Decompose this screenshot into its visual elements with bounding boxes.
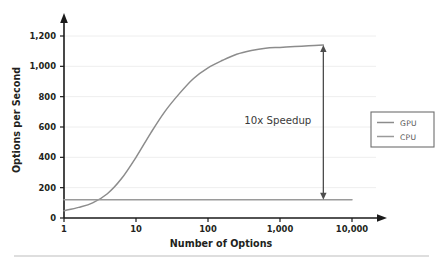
x-tick-label: 100: [199, 224, 217, 234]
y-tick-label: 0: [50, 213, 56, 223]
y-tick-label: 400: [39, 152, 57, 162]
chart-legend[interactable]: GPU CPU: [371, 112, 434, 147]
y-tick-label: 800: [39, 92, 57, 102]
options-per-second-chart: 02004006008001,0001,200 1101001,00010,00…: [0, 0, 443, 264]
y-tick-label: 600: [39, 122, 57, 132]
speedup-annotation-label: 10x Speedup: [244, 115, 311, 126]
x-tick-label: 10,000: [336, 224, 368, 234]
x-tick-label: 1: [61, 224, 67, 234]
y-tick-label: 1,000: [30, 61, 57, 71]
y-tick-label: 200: [39, 183, 57, 193]
legend-border: [371, 112, 434, 147]
x-axis-title: Number of Options: [170, 238, 273, 249]
x-tick-label: 10: [130, 224, 142, 234]
y-axis-title: Options per Second: [11, 67, 22, 173]
x-tick-label: 1,000: [267, 224, 294, 234]
legend-label-cpu: CPU: [400, 133, 416, 142]
y-tick-label: 1,200: [30, 31, 57, 41]
chart-figure: 02004006008001,0001,200 1101001,00010,00…: [0, 0, 443, 264]
legend-label-gpu: GPU: [400, 119, 417, 128]
